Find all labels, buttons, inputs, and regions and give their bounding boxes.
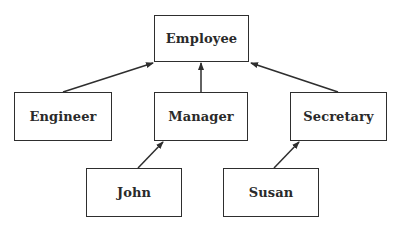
node-label: John bbox=[117, 185, 151, 200]
node-john: John bbox=[86, 168, 182, 217]
node-label: Susan bbox=[249, 185, 294, 200]
node-secretary: Secretary bbox=[290, 92, 387, 141]
node-manager: Manager bbox=[154, 92, 248, 141]
edge-engineer-to-employee bbox=[63, 63, 153, 92]
edge-john-to-manager bbox=[138, 142, 163, 168]
edge-secretary-to-employee bbox=[251, 63, 338, 92]
node-label: Engineer bbox=[29, 109, 96, 124]
edge-susan-to-secretary bbox=[274, 142, 299, 168]
node-label: Secretary bbox=[303, 109, 373, 124]
node-label: Manager bbox=[168, 109, 234, 124]
node-label: Employee bbox=[166, 31, 237, 46]
node-susan: Susan bbox=[223, 168, 319, 217]
node-employee: Employee bbox=[154, 15, 249, 62]
class-hierarchy-diagram: Employee Engineer Manager Secretary John… bbox=[0, 0, 400, 229]
node-engineer: Engineer bbox=[14, 92, 112, 141]
